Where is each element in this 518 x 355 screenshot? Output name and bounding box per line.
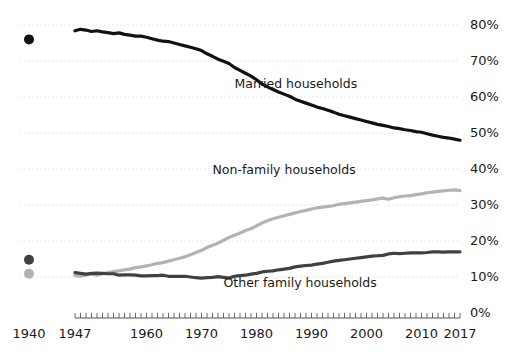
y-axis-tick-label: 10%	[470, 269, 499, 284]
y-axis-tick-label: 50%	[470, 125, 499, 140]
x-axis-tick-label: 1980	[240, 326, 273, 341]
x-axis-line-and-ticks	[75, 313, 460, 318]
y-axis-tick-label: 30%	[470, 197, 499, 212]
y-axis-tick-label: 40%	[470, 161, 499, 176]
household-composition-line-chart: 0%10%20%30%40%50%60%70%80% 1940194719601…	[0, 0, 518, 355]
gridlines-group	[20, 25, 458, 277]
series-label: Other family households	[224, 275, 377, 290]
y-axis-tick-label: 60%	[470, 89, 499, 104]
x-axis-tick-label: 1940	[12, 326, 45, 341]
x-axis-tick-label: 2010	[405, 326, 438, 341]
y-axis-tick-label: 20%	[470, 233, 499, 248]
x-axis-tick-label: 1960	[130, 326, 163, 341]
detached-1940-points	[24, 34, 34, 278]
x-axis-tick-labels: 194019471960197019801990200020102017	[12, 326, 476, 341]
y-axis-tick-label: 70%	[470, 53, 499, 68]
x-axis-tick-label: 1990	[295, 326, 328, 341]
x-axis-tick-label: 1947	[58, 326, 91, 341]
y-axis-tick-label: 0%	[470, 305, 491, 320]
chart-container: 0%10%20%30%40%50%60%70%80% 1940194719601…	[0, 0, 518, 355]
data-point-1940	[24, 269, 34, 279]
series-line	[75, 190, 460, 276]
x-axis-tick-label: 1970	[185, 326, 218, 341]
y-axis-tick-labels: 0%10%20%30%40%50%60%70%80%	[470, 17, 499, 320]
x-axis-tick-label: 2017	[443, 326, 476, 341]
x-axis-tick-label: 2000	[350, 326, 383, 341]
y-axis-tick-label: 80%	[470, 17, 499, 32]
series-label: Married households	[235, 76, 358, 91]
series-label: Non-family households	[213, 162, 356, 177]
data-point-1940	[24, 34, 34, 44]
data-point-1940	[24, 255, 34, 265]
